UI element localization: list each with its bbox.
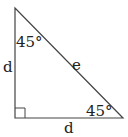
bottom-right-angle-label: 45° xyxy=(86,102,113,120)
triangle-diagram: 45° d e 45° d xyxy=(0,0,128,137)
right-angle-marker xyxy=(15,108,25,118)
hypotenuse-label: e xyxy=(72,56,81,74)
left-side-label: d xyxy=(3,58,13,76)
bottom-side-label: d xyxy=(64,119,74,137)
top-angle-label: 45° xyxy=(16,33,43,51)
